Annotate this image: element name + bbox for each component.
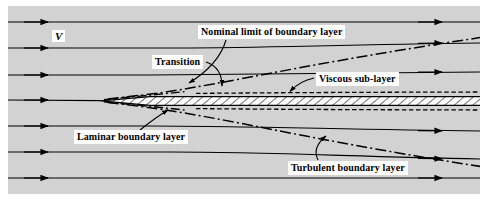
laminar-boundary-layer-label: Laminar boundary layer [74,130,188,144]
viscous-sublayer-label: Viscous sub-layer [316,72,399,86]
flat-plate [101,97,484,106]
turbulent-boundary-layer-label: Turbulent boundary layer [288,161,408,175]
boundary-layer-figure: V Nominal limit of boundary layer Transi… [0,0,488,207]
velocity-label: V [52,30,65,42]
streamline-3 [8,72,480,75]
streamline-4 [8,100,101,101]
viscous-sublayer-lower [196,109,484,110]
stagnation-streamline [8,100,101,101]
leader-viscous-sublayer [290,78,314,92]
nominal-limit-label: Nominal limit of boundary layer [198,25,345,39]
diagram-content [8,22,484,178]
plate-body [101,97,484,106]
viscous-sublayer-upper [196,92,484,93]
transition-label: Transition [152,55,203,69]
streamline-2 [8,43,480,48]
leader-laminar [140,110,168,130]
